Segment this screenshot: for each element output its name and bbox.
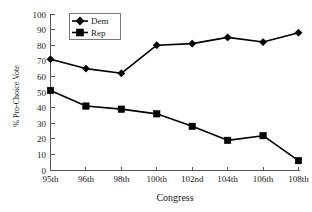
x-tick-label: 95th xyxy=(42,174,59,184)
x-tick-label: 98th xyxy=(113,174,130,184)
x-tick-label: 100th xyxy=(147,174,168,184)
y-tick-label: 40 xyxy=(37,103,47,113)
y-tick-label: 70 xyxy=(37,56,47,66)
chart-legend: Dem Rep xyxy=(70,14,121,40)
data-point-rep-102nd xyxy=(189,123,195,129)
y-tick-label: 30 xyxy=(37,119,47,129)
data-point-rep-104th xyxy=(224,137,230,143)
data-point-rep-95th xyxy=(47,87,53,93)
legend-label-rep: Rep xyxy=(91,28,106,38)
x-tick-label: 96th xyxy=(78,174,95,184)
data-point-rep-106th xyxy=(260,132,266,138)
legend-marker-square-icon xyxy=(77,29,84,36)
chart-container: % Pro-Choice Vote 100 90 80 70 60 50 40 xyxy=(0,0,312,212)
data-point-rep-98th xyxy=(118,106,124,112)
data-point-rep-96th xyxy=(83,103,89,109)
y-tick-label: 100 xyxy=(33,10,47,20)
y-tick-label: 10 xyxy=(37,150,47,160)
x-axis-title: Congress xyxy=(156,192,193,203)
data-point-rep-100th xyxy=(154,111,160,117)
y-tick-label: 20 xyxy=(37,134,47,144)
x-tick-label: 104th xyxy=(217,174,238,184)
y-axis-title: % Pro-Choice Vote xyxy=(12,65,21,127)
x-tick-label: 102nd xyxy=(181,174,204,184)
y-tick-label: 50 xyxy=(37,88,47,98)
legend-label-dem: Dem xyxy=(91,16,109,26)
data-point-rep-108th xyxy=(295,157,301,163)
x-tick-label: 106th xyxy=(253,174,274,184)
y-tick-label: 60 xyxy=(37,72,47,82)
x-tick-label: 108th xyxy=(288,174,309,184)
line-chart: % Pro-Choice Vote 100 90 80 70 60 50 40 xyxy=(0,0,312,212)
y-tick-label: 80 xyxy=(37,41,47,51)
y-tick-label: 90 xyxy=(37,25,47,35)
